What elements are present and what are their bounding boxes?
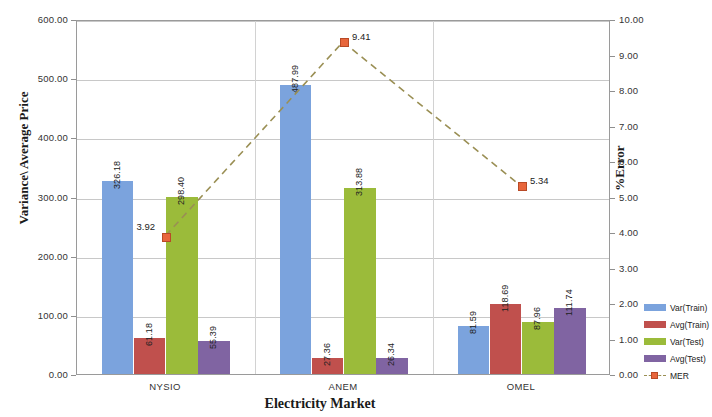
secondary-y-axis-tick-label: 6.00 <box>619 156 665 167</box>
y-axis-tick-mark <box>71 375 76 376</box>
bar[interactable] <box>166 197 198 374</box>
secondary-y-axis-tick-label: 8.00 <box>619 85 665 96</box>
x-axis-title: Electricity Market <box>0 396 640 412</box>
legend-color-swatch <box>644 321 666 328</box>
bar[interactable] <box>554 308 586 374</box>
bar-value-label: 326.18 <box>112 161 122 189</box>
secondary-y-axis-tick-label: 7.00 <box>619 121 665 132</box>
secondary-y-axis-tick-mark <box>610 20 615 21</box>
legend-line-marker-icon <box>644 372 666 379</box>
bar-value-label: 313.88 <box>354 168 364 196</box>
secondary-y-axis-tick-mark <box>610 56 615 57</box>
gridline <box>77 258 609 259</box>
bar-value-label: 81.59 <box>468 311 478 334</box>
legend-color-swatch <box>644 304 666 311</box>
gridline <box>77 80 609 81</box>
secondary-y-axis-tick-mark <box>610 304 615 305</box>
chart-container: Variance\ Average Price %Error Electrici… <box>0 0 712 417</box>
gridline <box>77 21 609 22</box>
bar-value-label: 87.96 <box>532 307 542 330</box>
secondary-y-axis-tick-mark <box>610 233 615 234</box>
secondary-y-axis-tick-mark <box>610 198 615 199</box>
legend-item[interactable]: Var(Test) <box>644 333 712 350</box>
y-axis-tick-label: 0.00 <box>6 369 68 380</box>
legend-item-label: Var(Train) <box>670 303 707 313</box>
mer-data-point[interactable] <box>162 233 171 242</box>
y-axis-tick-label: 600.00 <box>6 14 68 25</box>
y-axis-tick-label: 500.00 <box>6 73 68 84</box>
bar[interactable] <box>280 85 312 374</box>
bar-value-label: 55.39 <box>208 326 218 349</box>
y-axis-tick-label: 200.00 <box>6 251 68 262</box>
y-axis-tick-label: 100.00 <box>6 310 68 321</box>
gridline <box>77 139 609 140</box>
bar-value-label: 118.69 <box>500 284 510 311</box>
x-axis-tick-label: OMEL <box>432 381 610 392</box>
mer-value-label: 9.41 <box>352 31 371 42</box>
mer-data-point[interactable] <box>518 182 527 191</box>
legend-item-label: Var(Test) <box>670 337 704 347</box>
x-axis-tick-label: NYSIO <box>76 381 254 392</box>
bar-value-label: 298.40 <box>176 177 186 205</box>
bar[interactable] <box>490 304 522 374</box>
x-axis-tick-label: ANEM <box>254 381 432 392</box>
secondary-y-axis-tick-mark <box>610 340 615 341</box>
legend-item[interactable]: Var(Train) <box>644 299 712 316</box>
legend-item[interactable]: Avg(Test) <box>644 350 712 367</box>
category-separator <box>433 21 434 374</box>
mer-data-point[interactable] <box>340 38 349 47</box>
legend-item-label: Avg(Train) <box>670 320 709 330</box>
secondary-y-axis-tick-mark <box>610 127 615 128</box>
mer-value-label: 3.92 <box>137 221 156 232</box>
legend-color-swatch <box>644 355 666 362</box>
secondary-y-axis-tick-label: 4.00 <box>619 227 665 238</box>
secondary-y-axis-tick-label: 3.00 <box>619 263 665 274</box>
gridline <box>77 199 609 200</box>
secondary-y-axis-tick-mark <box>610 375 615 376</box>
secondary-y-axis-tick-mark <box>610 162 615 163</box>
category-separator <box>255 21 256 374</box>
secondary-y-axis-tick-mark <box>610 269 615 270</box>
bar-value-label: 61.18 <box>144 323 154 346</box>
legend-item[interactable]: MER <box>644 367 712 384</box>
legend-item[interactable]: Avg(Train) <box>644 316 712 333</box>
bar-value-label: 111.74 <box>564 289 574 316</box>
y-axis-tick-label: 400.00 <box>6 132 68 143</box>
secondary-y-axis-tick-mark <box>610 91 615 92</box>
chart-legend: Var(Train)Avg(Train)Var(Test)Avg(Test)ME… <box>644 299 712 384</box>
mer-value-label: 5.34 <box>530 175 549 186</box>
secondary-y-axis-tick-label: 10.00 <box>619 14 665 25</box>
y-axis-tick-label: 300.00 <box>6 192 68 203</box>
plot-area: 326.1861.18298.4055.39487.9927.36313.882… <box>76 20 610 375</box>
legend-item-label: MER <box>670 371 689 381</box>
legend-color-swatch <box>644 338 666 345</box>
bar-value-label: 27.36 <box>322 343 332 366</box>
secondary-y-axis-tick-label: 9.00 <box>619 50 665 61</box>
secondary-y-axis-tick-label: 5.00 <box>619 192 665 203</box>
bar-value-label: 26.34 <box>386 343 396 366</box>
legend-item-label: Avg(Test) <box>670 354 706 364</box>
bar[interactable] <box>344 188 376 374</box>
bar-value-label: 487.99 <box>290 65 300 93</box>
bar[interactable] <box>102 181 134 374</box>
gridline <box>77 317 609 318</box>
